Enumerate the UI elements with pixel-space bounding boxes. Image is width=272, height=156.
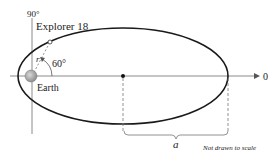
angle-60-label: 60°: [52, 58, 66, 69]
satellite-icon: [48, 40, 52, 44]
radius-label: r: [36, 54, 40, 64]
ellipse-center-dot: [121, 74, 125, 78]
semi-major-label: a: [173, 138, 179, 150]
zero-axis-label: 0: [263, 71, 268, 82]
earth-label: Earth: [37, 82, 59, 93]
arrow-head-icon: [254, 73, 260, 79]
angle-arc: [42, 59, 52, 76]
not-to-scale-note: Not drawn to scale: [202, 144, 256, 152]
satellite-label: Explorer 18: [36, 20, 89, 32]
orbit-diagram: 90° Explorer 18 r 60° Earth 0 a Not draw…: [0, 0, 272, 156]
angle-arrow-icon: [40, 57, 45, 62]
earth-icon: [25, 70, 37, 82]
angle-90-label: 90°: [27, 9, 40, 19]
